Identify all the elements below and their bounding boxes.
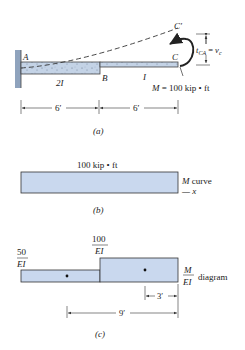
dim-short: 3′ bbox=[157, 291, 163, 301]
caption-c: (c) bbox=[95, 329, 105, 339]
diag-den: EI bbox=[182, 277, 192, 287]
label-c: C bbox=[172, 52, 179, 62]
figure-b: 100 kip • ft M curve — x (b) bbox=[21, 160, 212, 215]
x-axis-label: — x bbox=[181, 186, 196, 196]
fixed-wall bbox=[15, 50, 21, 88]
caption-b: (b) bbox=[93, 205, 104, 215]
beam-section-i bbox=[100, 62, 178, 67]
dim-left: 6′ bbox=[55, 103, 62, 113]
m-ei-left-block bbox=[21, 270, 100, 282]
label-2i: 2I bbox=[56, 78, 65, 88]
dim-right: 6′ bbox=[133, 103, 140, 113]
diag-word: diagram bbox=[198, 272, 228, 282]
label-c-prime: C′ bbox=[174, 21, 183, 31]
caption-a: (a) bbox=[93, 126, 104, 136]
figure-c: 50 EI 100 EI M EI diagram 3′ 9′ (c) bbox=[16, 234, 228, 339]
m-value-label: 100 kip • ft bbox=[77, 160, 118, 170]
beam-section-2i bbox=[21, 62, 100, 74]
label-i: I bbox=[142, 72, 147, 82]
m-curve-label: M curve bbox=[181, 176, 212, 186]
right-num: 100 bbox=[92, 234, 106, 244]
m-ei-right-block bbox=[100, 258, 178, 282]
deflection-label: tCA = vc bbox=[196, 45, 222, 56]
figure-a: A B C C′ 2I I M = 100 kip • ft tCA = vc … bbox=[15, 21, 222, 136]
dim-long: 9′ bbox=[119, 308, 125, 318]
centroid-left-dot bbox=[66, 275, 69, 278]
label-b: B bbox=[102, 73, 108, 83]
centroid-right-dot bbox=[144, 269, 147, 272]
m-curve-rect bbox=[21, 172, 178, 193]
left-den: EI bbox=[16, 259, 26, 269]
left-num: 50 bbox=[17, 247, 27, 257]
beam-diagram: A B C C′ 2I I M = 100 kip • ft tCA = vc … bbox=[0, 0, 245, 350]
label-a: A bbox=[22, 52, 29, 62]
right-den: EI bbox=[94, 246, 104, 256]
diag-num: M bbox=[183, 265, 192, 275]
moment-label: M = 100 kip • ft bbox=[151, 83, 210, 93]
